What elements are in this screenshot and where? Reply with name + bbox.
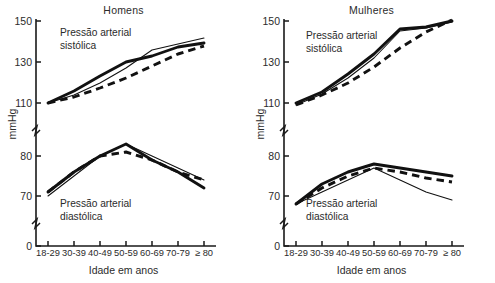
axis-break-lower	[280, 219, 288, 228]
systolic-thick-solid	[296, 21, 452, 103]
axis-break-upper	[280, 126, 288, 135]
chart-panel-mulheres: Mulheres mmHg 150 130 110 80 70 0 Pressã…	[248, 0, 495, 283]
plot-svg-mulheres	[248, 0, 495, 283]
figure-root: Homens mmHg 150 130 110 80 70 0 Pressão …	[0, 0, 495, 283]
axes	[32, 19, 216, 246]
chart-panel-homens: Homens mmHg 150 130 110 80 70 0 Pressão …	[0, 0, 247, 283]
series-lines-mulheres	[296, 20, 452, 204]
systolic-thick-dashed	[48, 46, 204, 103]
axis-break-upper	[32, 126, 40, 135]
plot-svg-homens	[0, 0, 247, 283]
axes	[280, 19, 464, 246]
axis-break-lower	[32, 219, 40, 228]
diastolic-thick-solid	[296, 164, 452, 204]
series-lines-homens	[48, 38, 204, 196]
